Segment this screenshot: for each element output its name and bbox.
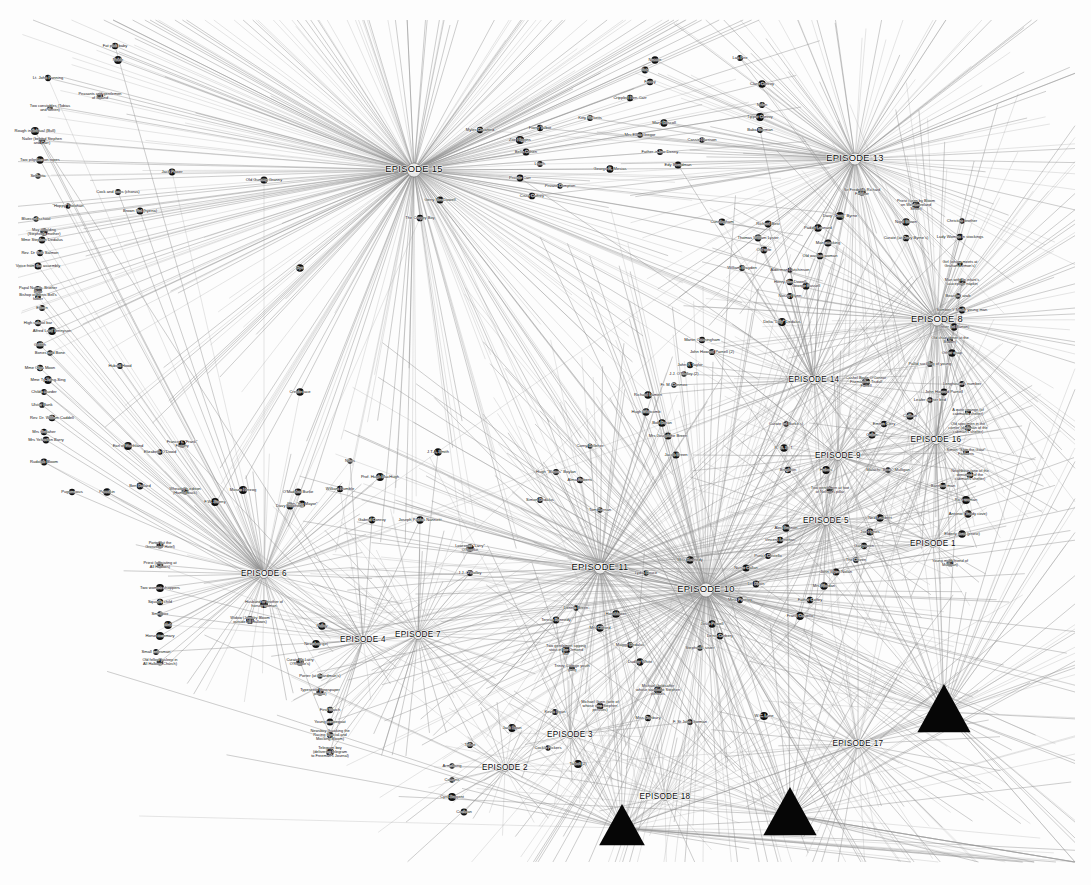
character-label: Pannikin bbox=[99, 489, 115, 494]
character-label: Old wife bbox=[757, 247, 773, 252]
character-label: Other chap bbox=[942, 350, 963, 355]
character-label: Mme Stephen Dedalus bbox=[21, 237, 63, 242]
character-label: Mme Ty-Tsing-Sing bbox=[31, 377, 67, 382]
character-label: Emma Clery bbox=[873, 421, 896, 426]
character-label: Hornblower bbox=[606, 611, 628, 616]
character-label: Mrs Josephine Breen bbox=[649, 433, 688, 438]
character-label: Bob Doran bbox=[652, 420, 672, 425]
character-label: Smallpox bbox=[152, 611, 169, 616]
character-label: J.J. O'Molloy (2) bbox=[669, 371, 699, 376]
character-label: Miss Kennedy bbox=[677, 557, 704, 562]
character-label: Mary Driscoll bbox=[652, 120, 676, 125]
character-label: Punch Costello bbox=[754, 553, 782, 558]
character-label: Pulloy bbox=[316, 623, 328, 628]
character-label: Newsboy (hawking theRacing Special andMo… bbox=[310, 728, 349, 742]
character-label: Rev. Dr. William Caddell bbox=[30, 415, 74, 420]
character-label: Comyns bbox=[444, 777, 459, 782]
character-label: Nikos bbox=[345, 458, 355, 463]
character-label: Cock and hens (chorus) bbox=[96, 189, 140, 194]
character-label: Señorita bbox=[30, 173, 46, 178]
character-label: Martin Cunningham bbox=[684, 337, 720, 342]
character-label: Porter (at Boardman's) bbox=[299, 673, 341, 678]
character-label: J.T.A. Smith bbox=[427, 449, 450, 454]
character-label: Simon Dedalus bbox=[526, 497, 554, 502]
character-label: Father Coffey bbox=[798, 597, 824, 602]
character-label: Other (at Burton) bbox=[939, 324, 970, 329]
character-label: Clare Conroy bbox=[750, 81, 775, 86]
character-label: Leafer on her bed bbox=[914, 397, 947, 402]
character-label: Mina Purefoy bbox=[728, 597, 753, 602]
episode-label: EPISODE 7 bbox=[395, 630, 441, 639]
character-label: Old washer woman bbox=[802, 253, 838, 258]
character-label: Richard Lamert bbox=[634, 392, 663, 397]
character-label: Baba Gorman bbox=[747, 127, 773, 132]
episode-label: EPISODE 10 bbox=[677, 583, 735, 594]
character-label: Bluecoat school bbox=[22, 216, 51, 221]
character-label: Nannie bbox=[649, 57, 663, 62]
character-label: Davy "Davy" Byrne bbox=[823, 213, 858, 218]
character-label: Bearded arab bbox=[946, 293, 972, 298]
character-label: Mme Olga Moon bbox=[25, 365, 56, 370]
character-label: Moses Herzog bbox=[230, 487, 257, 492]
character-label: Stephen's sister bbox=[686, 645, 716, 650]
character-label: Dennis Breen bbox=[564, 605, 590, 610]
character-label: Tory bbox=[641, 67, 650, 72]
character-label: Cissy Caffrey bbox=[520, 193, 545, 198]
character-label: Jack Egan bbox=[502, 725, 522, 730]
character-label: Talbot bbox=[465, 742, 477, 747]
character-label: Eileen bbox=[36, 305, 48, 310]
character-label: Nolan bbox=[757, 102, 768, 107]
character-label: R. G. S. T. bbox=[775, 445, 794, 450]
character-label: Fanny bbox=[644, 79, 656, 84]
character-label: Private Compton bbox=[545, 183, 576, 188]
character-label: Porter (at theGrosvenor Hotel) bbox=[145, 540, 175, 549]
character-label: Somber Y Mark, young man bbox=[937, 307, 989, 312]
character-label: Curate (at Burke's) bbox=[769, 421, 804, 426]
character-label: Mrs Yelverton Barry bbox=[28, 437, 65, 442]
character-label: Ulster Bank bbox=[31, 402, 53, 407]
character-label: Bones and Bone bbox=[35, 350, 66, 355]
character-label: Squad's child bbox=[148, 599, 173, 604]
character-label: Christian brother bbox=[947, 218, 978, 223]
character-label: Lady Woman in stockings bbox=[937, 234, 984, 239]
episode-label: EPISODE 14 bbox=[789, 375, 840, 384]
character-label: Two women shoppers bbox=[140, 585, 180, 590]
character-label: Tom Kernan bbox=[589, 507, 612, 512]
character-label: A quite strange (ofcabman's shelter) bbox=[952, 407, 984, 416]
character-label: Teresa Kennedy bbox=[541, 617, 572, 622]
character-label: Alec Bannon bbox=[774, 525, 798, 530]
character-label: Thomas William Lyster bbox=[737, 235, 779, 240]
character-label: Henry MacDowell bbox=[774, 279, 806, 284]
network-graph-svg: Fat pink babyNobleLt. John FanningPeasan… bbox=[0, 0, 1091, 885]
character-label: Denis Carbery bbox=[707, 633, 734, 638]
character-label: Breghton bbox=[780, 467, 797, 472]
character-label: Man smoking bbox=[816, 240, 841, 245]
character-label: Old specimen in thecorner (darkman of th… bbox=[948, 421, 987, 435]
character-label: Alfred Lord Tennyson bbox=[33, 328, 72, 333]
character-label: Fat pink baby bbox=[103, 43, 129, 48]
episode-label: EPISODE 15 bbox=[385, 163, 443, 174]
character-label: Wheatley's edition(Hamlet back) bbox=[169, 486, 200, 495]
character-label: Haines bbox=[820, 467, 833, 472]
character-label: Pugnacious bbox=[61, 489, 82, 494]
character-label: J.J. O'Molloy bbox=[458, 570, 482, 575]
character-label: Rough individual (Bull) bbox=[15, 128, 57, 133]
character-label: Rich woman bbox=[955, 497, 978, 502]
character-label: The Citizen bbox=[846, 557, 867, 562]
character-label: Cassie Harrison bbox=[687, 137, 717, 142]
character-label: Armstrong bbox=[443, 763, 463, 768]
character-label: Myles Crawford bbox=[466, 127, 495, 132]
character-label: Barefoot man bbox=[931, 483, 956, 488]
character-label: Private Carr bbox=[509, 175, 531, 180]
character-label: Elizabeth O'Dowd bbox=[144, 449, 177, 454]
character-label: Lydia Douce bbox=[635, 570, 658, 575]
character-label: Frank Costello bbox=[787, 613, 814, 618]
character-label: Cunningham bbox=[710, 219, 734, 224]
character-label: Caliban bbox=[903, 413, 918, 418]
episode-label: EPISODE 16 bbox=[911, 435, 962, 444]
character-label: Maggy Dedalus bbox=[616, 642, 644, 647]
character-label: Lt. John Fanning bbox=[33, 75, 64, 80]
character-label: Alma Roberts bbox=[568, 477, 593, 482]
character-label: O'Madden Burke bbox=[283, 489, 314, 494]
character-label: Earl of Northland bbox=[113, 443, 144, 448]
